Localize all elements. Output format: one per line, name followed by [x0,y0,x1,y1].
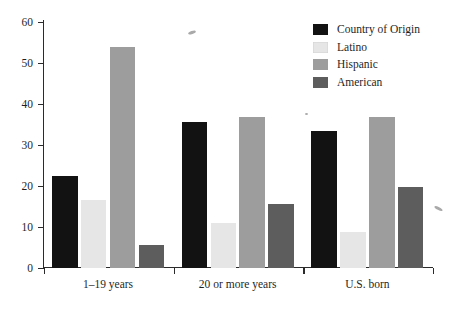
y-axis-tick: 30 [38,145,44,146]
bar [52,176,78,268]
legend-color-swatch [313,59,328,70]
x-axis-category-label: 20 or more years [199,279,277,291]
y-axis-tick-label: 10 [22,222,34,234]
x-axis-tick [174,268,175,274]
legend-item: American [313,74,420,92]
legend-color-swatch [313,77,328,88]
x-axis-tick [303,268,304,274]
bar [81,200,107,268]
legend-item: Country of Origin [313,21,420,39]
y-axis-tick: 60 [38,22,44,23]
bar-chart: 0102030405060 1–19 years20 or more years… [0,0,459,310]
bar [211,223,237,268]
y-axis-tick-label: 0 [27,263,33,275]
x-axis-category-label: U.S. born [345,279,389,291]
y-axis-tick: 50 [38,63,44,64]
legend-label: American [337,77,382,89]
y-axis-tick-label: 30 [22,140,34,152]
scan-artifact [434,205,443,212]
y-axis-tick-label: 50 [22,58,34,70]
y-axis-tick: 10 [38,227,44,228]
legend-color-swatch [313,24,328,35]
bar [369,117,395,268]
chart-legend: Country of OriginLatinoHispanicAmerican [313,21,420,91]
legend-item: Hispanic [313,56,420,74]
legend-label: Country of Origin [337,24,420,36]
y-axis-tick-label: 40 [22,99,34,111]
bar [398,187,424,268]
x-axis-category-label: 1–19 years [83,279,133,291]
y-axis-tick: 20 [38,186,44,187]
bar [110,47,136,268]
bar [239,117,265,268]
scan-artifact [305,113,308,115]
legend-color-swatch [313,42,328,53]
y-axis-tick-label: 20 [22,181,34,193]
legend-label: Latino [337,42,367,54]
bar [139,245,165,268]
x-axis-tick [433,268,434,274]
legend-label: Hispanic [337,59,378,71]
bar [311,131,337,268]
x-axis-tick [44,268,45,274]
bar [182,122,208,268]
bar [268,204,294,268]
legend-item: Latino [313,39,420,57]
y-axis-tick: 40 [38,104,44,105]
y-axis-tick-label: 60 [22,17,34,29]
bar [340,232,366,268]
